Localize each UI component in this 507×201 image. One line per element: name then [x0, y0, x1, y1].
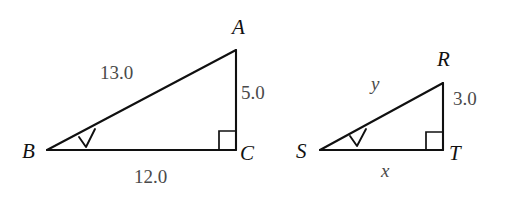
vertex-label-c: C — [240, 141, 255, 165]
vertex-label-t: T — [449, 141, 462, 165]
vertex-label-r: R — [436, 47, 450, 71]
side-label-rt: 3.0 — [453, 88, 477, 109]
triangle-rst: R S T y 3.0 x — [296, 47, 477, 181]
right-angle-mark-c — [219, 131, 236, 150]
right-angle-mark-t — [426, 132, 443, 150]
vertex-label-s: S — [296, 139, 307, 163]
vertex-label-b: B — [22, 139, 35, 163]
segment-sr — [320, 83, 443, 150]
side-label-st: x — [380, 160, 390, 181]
triangle-abc: A B C 13.0 5.0 12.0 — [22, 15, 265, 187]
side-label-bc: 12.0 — [134, 166, 167, 187]
vertex-label-a: A — [230, 15, 245, 39]
geometry-diagram: A B C 13.0 5.0 12.0 R S T y — [0, 0, 507, 201]
diagram-canvas: A B C 13.0 5.0 12.0 R S T y — [0, 0, 507, 201]
side-label-ac: 5.0 — [241, 82, 265, 103]
side-label-sr: y — [369, 73, 380, 94]
side-label-ab: 13.0 — [100, 62, 133, 83]
segment-ab — [47, 50, 236, 150]
